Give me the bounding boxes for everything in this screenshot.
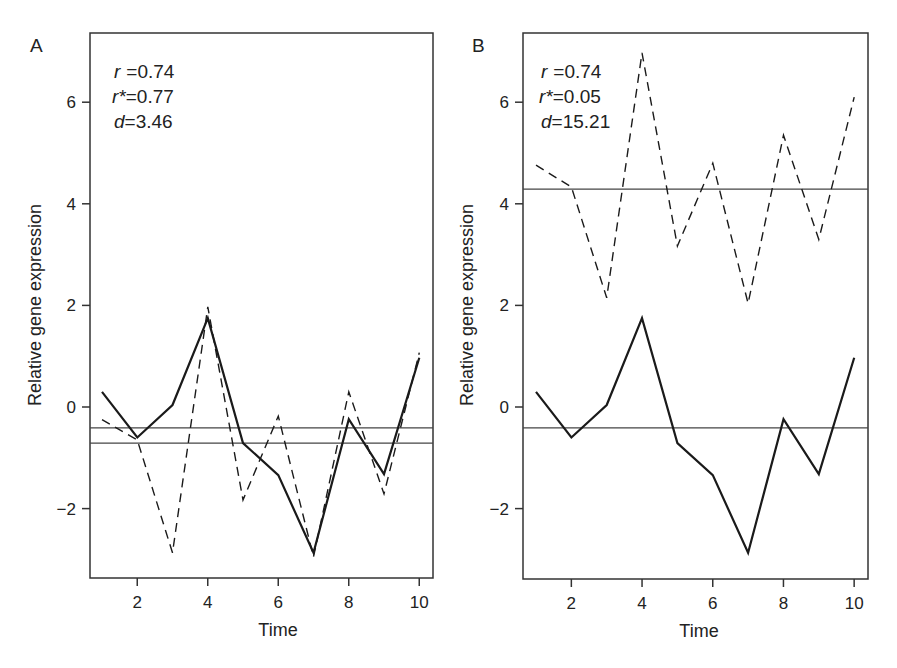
y-tick-label: 0 xyxy=(500,398,509,417)
series-line-solid xyxy=(102,318,419,553)
y-tick-label: 2 xyxy=(67,296,76,315)
mean-lines-a xyxy=(90,428,433,443)
x-axis-b: 246810 xyxy=(567,579,864,613)
stats-a: r=0.74 r*=0.77 d=3.46 xyxy=(112,61,175,132)
x-axis-a: 246810 xyxy=(133,578,429,612)
figure: A r=0.74 r*=0.77 d=3.46 −20246 246810 Ti… xyxy=(0,0,897,668)
stat-r-label: r xyxy=(541,61,548,82)
stat-rstar-value: =0.05 xyxy=(553,86,601,107)
panel-label-b: B xyxy=(472,35,485,56)
x-tick-label: 10 xyxy=(410,593,429,612)
stat-d-value: =15.21 xyxy=(552,111,611,132)
y-axis-b: −20246 xyxy=(490,93,523,518)
svg-text:d=3.46: d=3.46 xyxy=(114,111,173,132)
y-tick-label: 0 xyxy=(67,398,76,417)
y-tick-label: −2 xyxy=(57,500,76,519)
x-tick-label: 2 xyxy=(567,594,576,613)
svg-text:r*=0.05: r*=0.05 xyxy=(539,86,601,107)
stat-r-label: r xyxy=(114,61,121,82)
y-axis-a: −20246 xyxy=(57,93,90,518)
mean-lines-b xyxy=(523,189,868,428)
x-tick-label: 4 xyxy=(637,594,646,613)
y-tick-label: 6 xyxy=(67,93,76,112)
x-axis-title-b: Time xyxy=(679,621,718,641)
stat-rstar-label: r* xyxy=(112,86,126,107)
stat-rstar-value: =0.77 xyxy=(126,86,174,107)
y-tick-label: 4 xyxy=(500,195,509,214)
x-tick-label: 2 xyxy=(133,593,142,612)
x-tick-label: 6 xyxy=(708,594,717,613)
y-axis-title-a: Relative gene expression xyxy=(25,204,45,406)
y-tick-label: 2 xyxy=(500,296,509,315)
x-tick-label: 6 xyxy=(274,593,283,612)
series-a xyxy=(102,307,419,557)
x-tick-label: 8 xyxy=(779,594,788,613)
x-axis-title-a: Time xyxy=(258,620,297,640)
stat-d-value: =3.46 xyxy=(125,111,173,132)
y-tick-label: 6 xyxy=(500,93,509,112)
x-tick-label: 4 xyxy=(203,593,212,612)
x-tick-label: 10 xyxy=(845,594,864,613)
series-line-dashed xyxy=(102,307,419,557)
panel-label-a: A xyxy=(30,35,43,56)
series-line-solid xyxy=(536,318,854,553)
y-tick-label: 4 xyxy=(67,195,76,214)
x-tick-label: 8 xyxy=(344,593,353,612)
stat-rstar-label: r* xyxy=(539,86,553,107)
y-axis-title-b: Relative gene expression xyxy=(457,204,477,406)
stats-b: r=0.74 r*=0.05 d=15.21 xyxy=(539,61,610,132)
panel-b: B r=0.74 r*=0.05 d=15.21 −20246 246810 T… xyxy=(457,33,868,641)
svg-text:d=15.21: d=15.21 xyxy=(541,111,610,132)
svg-text:r*=0.77: r*=0.77 xyxy=(112,86,174,107)
svg-text:r=0.74: r=0.74 xyxy=(114,61,175,82)
stat-r-value: =0.74 xyxy=(553,61,602,82)
svg-text:r=0.74: r=0.74 xyxy=(541,61,602,82)
y-tick-label: −2 xyxy=(490,500,509,519)
stat-r-value: =0.74 xyxy=(126,61,175,82)
panel-a: A r=0.74 r*=0.77 d=3.46 −20246 246810 Ti… xyxy=(25,33,433,640)
